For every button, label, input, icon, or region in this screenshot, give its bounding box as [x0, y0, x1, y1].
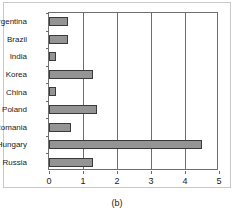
bar-korea	[49, 70, 93, 79]
bar-row	[49, 118, 219, 136]
x-tick-label-4: 4	[175, 176, 195, 187]
x-tick-5	[219, 171, 220, 174]
x-tick-4	[185, 171, 186, 174]
category-label-hungary: Hungary	[0, 140, 27, 149]
bar-row	[49, 31, 219, 49]
bar-row	[49, 136, 219, 154]
bar-row	[49, 48, 219, 66]
bar-row	[49, 153, 219, 171]
y-tick	[46, 136, 49, 137]
bar-row	[49, 101, 219, 119]
bar-romania	[49, 123, 71, 132]
y-tick	[46, 118, 49, 119]
y-tick	[46, 13, 49, 14]
category-label-argentina: Argentina	[0, 17, 27, 26]
category-label-brazil: Brazil	[0, 35, 27, 44]
y-tick	[46, 83, 49, 84]
x-tick-label-1: 1	[73, 176, 93, 187]
category-label-romania: Romania	[0, 123, 27, 132]
figure-caption: (b)	[0, 198, 234, 208]
x-tick-label-3: 3	[141, 176, 161, 187]
y-tick	[46, 31, 49, 32]
category-label-india: India	[0, 52, 27, 61]
x-tick-label-5: 5	[209, 176, 229, 187]
plot-area: 012345 ArgentinaBrazilIndiaKoreaChinaPol…	[48, 12, 218, 170]
y-tick	[46, 101, 49, 102]
bar-row	[49, 13, 219, 31]
figure: 012345 ArgentinaBrazilIndiaKoreaChinaPol…	[0, 0, 234, 222]
category-label-poland: Poland	[0, 105, 27, 114]
bar-china	[49, 87, 56, 96]
bar-brazil	[49, 35, 68, 44]
bar-russia	[49, 158, 93, 167]
y-tick	[46, 66, 49, 67]
bar-argentina	[49, 17, 68, 26]
x-tick-label-0: 0	[39, 176, 59, 187]
bar-india	[49, 52, 56, 61]
x-tick-2	[117, 171, 118, 174]
category-label-korea: Korea	[0, 70, 27, 79]
x-tick-3	[151, 171, 152, 174]
bar-poland	[49, 105, 97, 114]
bar-hungary	[49, 140, 202, 149]
bar-row	[49, 83, 219, 101]
category-label-china: China	[0, 88, 27, 97]
bar-row	[49, 66, 219, 84]
x-tick-0	[49, 171, 50, 174]
category-label-russia: Russia	[0, 158, 27, 167]
x-tick-1	[83, 171, 84, 174]
x-tick-label-2: 2	[107, 176, 127, 187]
y-tick	[46, 153, 49, 154]
y-tick	[46, 48, 49, 49]
